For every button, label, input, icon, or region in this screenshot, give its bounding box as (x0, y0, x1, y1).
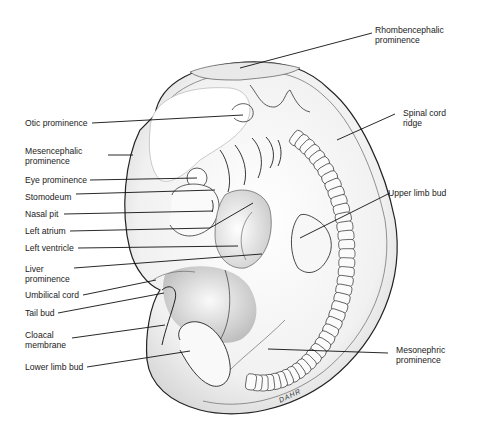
label-lower-limb-bud: Lower limb bud (25, 362, 83, 372)
label-tail-bud: Tail bud (25, 308, 55, 318)
label-eye-prominence: Eye prominence (25, 175, 87, 185)
somite (339, 249, 355, 259)
leader-rhombencephalic (240, 33, 372, 68)
label-spinal-cord-ridge: Spinal cord ridge (403, 108, 446, 128)
label-rhombencephalic-prominence: Rhombencephalic prominence (375, 25, 444, 45)
label-otic-prominence: Otic prominence (25, 118, 88, 128)
leader-umbilical (83, 280, 156, 295)
label-left-ventricle: Left ventricle (25, 243, 74, 253)
label-cloacal-membrane: Cloacal membrane (25, 330, 66, 350)
label-stomodeum: Stomodeum (25, 192, 71, 202)
embryo-illustration (0, 0, 477, 443)
label-left-atrium: Left atrium (25, 226, 66, 236)
label-mesonephric-prominence: Mesonephric prominence (396, 345, 445, 365)
label-mesencephalic-prominence: Mesencephalic prominence (25, 146, 82, 166)
label-liver-prominence: Liver prominence (25, 264, 70, 284)
somite (245, 373, 257, 390)
label-nasal-pit: Nasal pit (25, 209, 58, 219)
label-upper-limb-bud: Upper limb bud (388, 188, 446, 198)
label-umbilical-cord: Umbilical cord (25, 290, 79, 300)
